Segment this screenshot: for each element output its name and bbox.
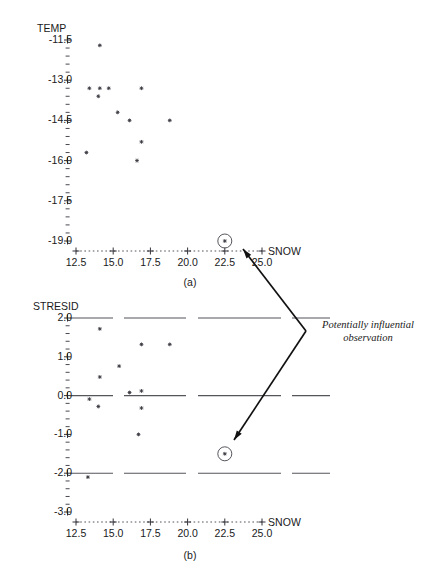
y-tick-label: -1.0 <box>26 427 72 439</box>
data-point <box>85 151 89 155</box>
annotation-arrow-to-panel-b-head <box>234 430 242 440</box>
x-tick-label: 22.5 <box>205 256 245 268</box>
data-point <box>107 86 111 90</box>
data-point <box>140 342 144 346</box>
data-point <box>87 86 91 90</box>
x-tick-label: 15.0 <box>93 527 133 539</box>
y-tick-label: 2.0 <box>26 311 72 323</box>
x-tick-label: 20.0 <box>168 527 208 539</box>
figure-container: TEMP-11.5-13.0-14.5-16.0-17.5-19.012.515… <box>0 0 426 573</box>
x-tick-label: 25.0 <box>242 256 282 268</box>
data-point <box>96 94 100 98</box>
y-tick-label: -11.5 <box>26 33 72 45</box>
y-tick-label: -16.0 <box>26 154 72 166</box>
x-tick-label: 22.5 <box>205 527 245 539</box>
data-point <box>117 364 121 368</box>
data-point <box>96 405 100 409</box>
data-point <box>140 389 144 393</box>
data-point <box>98 375 102 379</box>
highlighted-data-point <box>223 239 227 243</box>
y-tick-label: -14.5 <box>26 113 72 125</box>
data-point <box>168 119 172 123</box>
data-point <box>128 391 132 395</box>
data-point <box>86 475 90 479</box>
annotation-line-2: observation <box>312 331 424 344</box>
data-point <box>98 86 102 90</box>
data-point <box>137 433 141 437</box>
y-tick-label: -3.0 <box>26 505 72 517</box>
axis-label-x-a: SNOW <box>268 245 301 257</box>
data-point <box>140 406 144 410</box>
highlighted-data-point <box>223 452 227 456</box>
panel-label-b: (b) <box>160 549 220 561</box>
data-point <box>140 140 144 144</box>
data-point <box>135 159 139 163</box>
y-tick-label: 0.0 <box>26 389 72 401</box>
data-point <box>168 342 172 346</box>
data-point <box>98 43 102 47</box>
y-tick-label: -13.0 <box>26 73 72 85</box>
x-tick-label: 17.5 <box>130 256 170 268</box>
x-tick-label: 12.5 <box>56 256 96 268</box>
x-tick-label: 15.0 <box>93 256 133 268</box>
data-point <box>98 327 102 331</box>
annotation-arrow-to-panel-b <box>234 331 306 440</box>
x-tick-label: 25.0 <box>242 527 282 539</box>
data-point <box>87 397 91 401</box>
y-tick-label: -19.0 <box>26 234 72 246</box>
x-tick-label: 17.5 <box>130 527 170 539</box>
data-point <box>116 110 120 114</box>
data-point <box>140 86 144 90</box>
x-tick-label: 20.0 <box>168 256 208 268</box>
y-tick-label: -2.0 <box>26 466 72 478</box>
axis-label-x-b: SNOW <box>268 516 301 528</box>
y-tick-label: -17.5 <box>26 194 72 206</box>
annotation-line-1: Potentially influential <box>312 318 424 331</box>
x-tick-label: 12.5 <box>56 527 96 539</box>
panel-label-a: (a) <box>160 276 220 288</box>
y-tick-label: 1.0 <box>26 350 72 362</box>
data-point <box>128 119 132 123</box>
annotation-text: Potentially influentialobservation <box>312 318 424 344</box>
